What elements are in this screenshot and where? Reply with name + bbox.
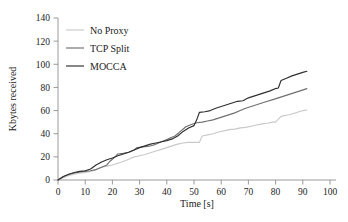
x-tick-label: 100	[323, 187, 338, 197]
y-tick-label: 120	[36, 37, 51, 47]
y-tick-label: 60	[41, 106, 51, 116]
legend-label-mocca: MOCCA	[90, 61, 127, 72]
x-tick-label: 50	[189, 187, 199, 197]
y-tick-label: 40	[41, 129, 51, 139]
legend-label-no-proxy: No Proxy	[90, 25, 129, 36]
x-tick-label: 20	[108, 187, 118, 197]
x-tick-label: 80	[271, 187, 281, 197]
line-chart: 020406080100120140 Kbytes received 01020…	[0, 0, 348, 222]
chart-canvas: 020406080100120140 Kbytes received 01020…	[0, 0, 348, 222]
x-tick-label: 0	[56, 187, 61, 197]
legend-label-tcp-split: TCP Split	[90, 43, 130, 54]
x-tick-label: 10	[80, 187, 90, 197]
x-tick-label: 60	[216, 187, 226, 197]
x-tick-label: 70	[244, 187, 254, 197]
y-tick-label: 20	[41, 152, 51, 162]
y-tick-label: 140	[36, 13, 51, 23]
x-tick-label: 90	[298, 187, 308, 197]
x-tick-label: 40	[162, 187, 172, 197]
y-tick-label: 100	[36, 60, 51, 70]
y-tick-label: 0	[45, 175, 50, 185]
y-axis-title: Kbytes received	[7, 67, 18, 132]
chart-background	[0, 0, 348, 222]
x-tick-label: 30	[135, 187, 145, 197]
y-tick-label: 80	[41, 83, 51, 93]
x-axis-title: Time [s]	[180, 198, 214, 209]
